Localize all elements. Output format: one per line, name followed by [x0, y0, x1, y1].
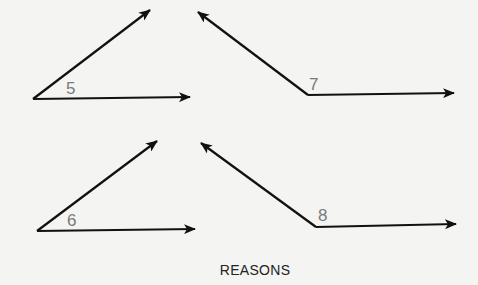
angle-5-label: 5	[66, 80, 75, 97]
angle-5-ray-up	[33, 10, 150, 99]
reasons-caption: REASONS	[0, 262, 478, 278]
angle-6-label: 6	[67, 212, 76, 229]
angle-6-ray-up	[37, 141, 157, 231]
angle-5-ray-right	[33, 97, 190, 99]
angle-6-ray-right	[37, 229, 195, 231]
angle-7-ray-up	[198, 12, 308, 95]
angle-7-ray-right	[308, 93, 454, 95]
angle-7-label: 7	[309, 76, 318, 93]
angle-diagram	[0, 0, 478, 285]
angle-8-label: 8	[318, 207, 327, 224]
angle-8-ray-right	[316, 224, 456, 227]
angle-8-ray-up	[201, 143, 316, 227]
